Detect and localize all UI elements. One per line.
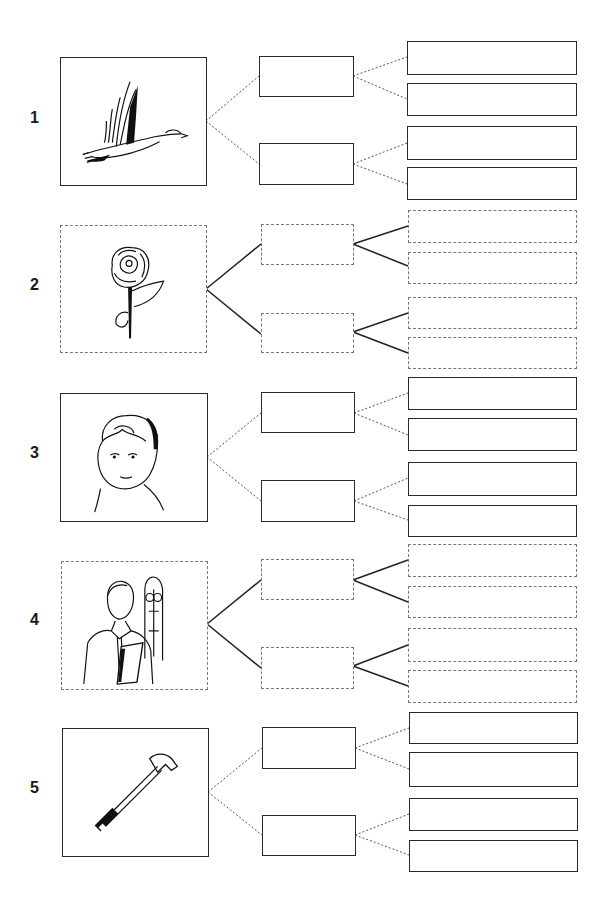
answer-box-1b[interactable] <box>259 143 354 185</box>
answer-box-3b-ii[interactable] <box>408 505 577 537</box>
picture-box-rose <box>60 225 207 353</box>
answer-box-1b-ii[interactable] <box>407 167 577 200</box>
answer-box-5b[interactable] <box>262 815 356 856</box>
answer-box-1a[interactable] <box>259 56 354 97</box>
answer-box-3a-ii[interactable] <box>408 418 577 451</box>
answer-box-2a-ii[interactable] <box>408 252 577 284</box>
duck-icon <box>61 58 206 185</box>
answer-box-2a-i[interactable] <box>408 210 577 243</box>
answer-box-1a-ii[interactable] <box>407 83 577 116</box>
answer-box-2a[interactable] <box>261 224 354 265</box>
row-number: 2 <box>30 276 50 294</box>
answer-box-1b-i[interactable] <box>407 126 577 160</box>
picture-box-priest <box>61 561 208 690</box>
answer-box-5a[interactable] <box>262 727 356 769</box>
row-number: 4 <box>30 611 50 629</box>
row-number: 3 <box>30 444 50 462</box>
answer-box-4b-i[interactable] <box>408 628 577 662</box>
answer-box-3a-i[interactable] <box>408 377 577 410</box>
answer-box-3b[interactable] <box>261 480 355 522</box>
answer-box-4b-ii[interactable] <box>408 670 577 703</box>
picture-box-hammer <box>62 728 209 857</box>
answer-box-5b-ii[interactable] <box>409 840 578 872</box>
rose-icon <box>61 226 206 352</box>
picture-box-child <box>60 393 208 522</box>
answer-box-2b-ii[interactable] <box>408 337 577 369</box>
answer-box-4a[interactable] <box>261 559 354 600</box>
child-face-icon <box>61 394 207 521</box>
answer-box-5a-ii[interactable] <box>409 752 578 787</box>
answer-box-3b-i[interactable] <box>408 462 577 496</box>
answer-box-4a-ii[interactable] <box>408 586 577 618</box>
row-number: 1 <box>30 109 50 127</box>
picture-box-duck <box>60 57 207 186</box>
answer-box-1a-i[interactable] <box>407 41 577 75</box>
answer-box-4a-i[interactable] <box>408 544 577 577</box>
answer-box-4b[interactable] <box>261 647 354 689</box>
answer-box-5b-i[interactable] <box>409 798 578 831</box>
answer-box-2b[interactable] <box>261 313 354 353</box>
answer-box-2b-i[interactable] <box>408 297 577 329</box>
priest-icon <box>62 562 207 689</box>
hammer-icon <box>63 729 208 856</box>
answer-box-3a[interactable] <box>261 392 355 433</box>
row-number: 5 <box>30 779 50 797</box>
answer-box-5a-i[interactable] <box>409 712 578 744</box>
